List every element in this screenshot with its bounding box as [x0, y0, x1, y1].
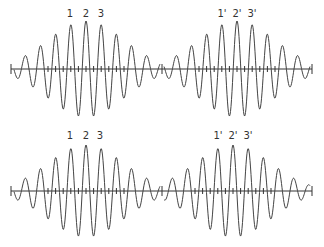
wave-row: [11, 21, 312, 116]
peak-label: 3': [247, 9, 256, 19]
peak-label: 1: [67, 9, 73, 19]
peak-label: 3: [97, 131, 103, 141]
peak-label: 3: [98, 9, 104, 19]
peak-label: 2: [83, 9, 89, 19]
wave-packet-figure: 1231'2'3'1231'2'3': [0, 0, 324, 247]
peak-label: 1': [217, 9, 226, 19]
peak-label: 1: [67, 131, 73, 141]
peak-label: 2: [83, 131, 89, 141]
peak-label: 3': [243, 131, 252, 141]
wave-packet-diagram: [0, 0, 324, 247]
wave-row: [11, 145, 312, 236]
peak-label: 2': [228, 131, 237, 141]
peak-label: 2': [232, 9, 241, 19]
peak-label: 1': [213, 131, 222, 141]
